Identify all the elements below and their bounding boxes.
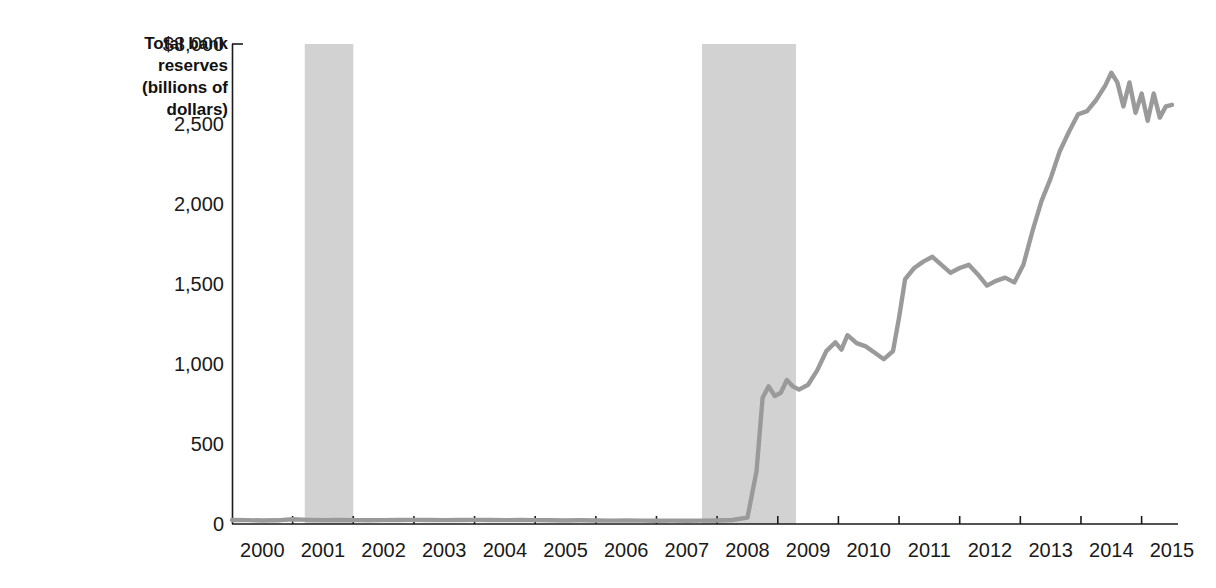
x-axis-tick-label: 2000 <box>240 539 285 561</box>
x-axis-tick-labels: 2000200120022003200420052006200720082009… <box>240 539 1194 561</box>
x-axis-tick-label: 2014 <box>1089 539 1134 561</box>
x-axis-tick-label: 2002 <box>361 539 406 561</box>
x-axis-tick-label: 2010 <box>846 539 891 561</box>
x-axis-tick-label: 2011 <box>908 539 951 561</box>
bank-reserves-chart: Total bank reserves (billions of dollars… <box>0 0 1216 588</box>
y-axis-tick-label: 2,500 <box>174 113 224 135</box>
x-axis-tick-label: 2015 <box>1150 539 1195 561</box>
x-axis-tick-label: 2013 <box>1028 539 1073 561</box>
chart-svg: Total bank reserves (billions of dollars… <box>0 0 1216 588</box>
x-axis-tick-label: 2004 <box>483 539 528 561</box>
recession-band <box>305 44 354 524</box>
x-axis-tick-label: 2001 <box>301 539 346 561</box>
y-axis-tick-label: 1,500 <box>174 273 224 295</box>
y-axis-title-line-2: reserves <box>158 56 228 75</box>
x-axis-tick-label: 2005 <box>543 539 588 561</box>
y-axis-tick-label: 1,000 <box>174 353 224 375</box>
x-axis-tick-label: 2008 <box>725 539 770 561</box>
y-axis-tick-label: 0 <box>213 513 224 535</box>
y-axis-tick-label: 2,000 <box>174 193 224 215</box>
x-axis-tick-label: 2007 <box>665 539 710 561</box>
y-axis-tick-label: $3,000 <box>163 33 224 55</box>
x-axis-tick-label: 2009 <box>786 539 831 561</box>
recession-bands-group <box>305 44 796 524</box>
x-axis-tick-label: 2006 <box>604 539 649 561</box>
x-axis-tick-label: 2003 <box>422 539 467 561</box>
y-axis-title-line-3: (billions of <box>142 78 228 97</box>
y-axis-tick-label: 500 <box>191 433 224 455</box>
x-axis-tick-label: 2012 <box>968 539 1013 561</box>
recession-band <box>702 44 796 524</box>
